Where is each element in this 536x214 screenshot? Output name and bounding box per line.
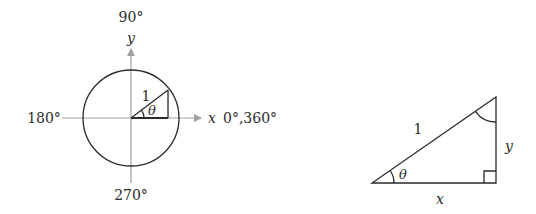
right-triangle-figure: 1 y x θ (372, 97, 514, 207)
radius-label: 1 (142, 88, 151, 104)
label-180-degrees: 180° (27, 110, 61, 126)
trig-diagram: 90° y 180° x 0°,360° 270° 1 θ 1 y x θ (0, 0, 536, 214)
hypotenuse-label: 1 (414, 121, 423, 137)
label-90-degrees: 90° (119, 9, 144, 25)
vertical-leg-label: y (504, 138, 514, 154)
right-angle-marker (484, 171, 496, 183)
theta-arc (390, 171, 394, 184)
y-axis-label: y (126, 30, 136, 46)
unit-circle-figure: 90° y 180° x 0°,360° 270° 1 θ (27, 9, 277, 203)
angle-arc (141, 110, 144, 118)
horizontal-leg-label: x (436, 191, 444, 207)
top-angle-arc (475, 111, 496, 122)
x-axis-label: x (208, 110, 216, 126)
label-0-360-degrees: 0°,360° (223, 110, 277, 126)
theta-label: θ (148, 103, 156, 118)
label-270-degrees: 270° (114, 187, 148, 203)
right-triangle (372, 97, 496, 183)
triangle-theta-label: θ (399, 167, 407, 182)
